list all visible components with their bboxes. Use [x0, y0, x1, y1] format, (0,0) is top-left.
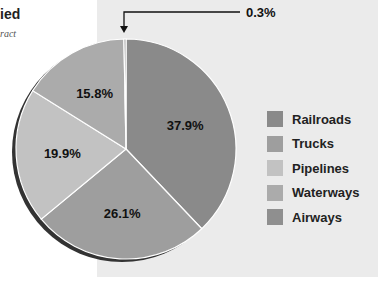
legend-item-airways: Airways	[267, 205, 359, 230]
legend-label: Pipelines	[292, 161, 349, 176]
legend-swatch	[267, 111, 283, 127]
legend-swatch	[267, 160, 283, 176]
legend-label: Airways	[292, 210, 342, 225]
legend-label: Waterways	[292, 185, 359, 200]
legend-swatch	[267, 136, 283, 152]
legend: Railroads Trucks Pipelines Waterways Air…	[267, 107, 359, 230]
legend-item-railroads: Railroads	[267, 107, 359, 132]
legend-swatch	[267, 209, 283, 225]
slice-label-railroads: 37.9%	[167, 118, 204, 133]
legend-swatch	[267, 185, 283, 201]
legend-item-pipelines: Pipelines	[267, 156, 359, 181]
legend-label: Trucks	[292, 136, 334, 151]
slice-label-waterways: 15.8%	[76, 86, 113, 101]
slice-label-trucks: 26.1%	[104, 206, 141, 221]
legend-label: Railroads	[292, 112, 351, 127]
airways-callout-arrow	[120, 12, 240, 33]
slice-label-pipelines: 19.9%	[44, 146, 81, 161]
legend-item-trucks: Trucks	[267, 132, 359, 157]
legend-item-waterways: Waterways	[267, 181, 359, 206]
airways-callout-label: 0.3%	[246, 5, 276, 20]
